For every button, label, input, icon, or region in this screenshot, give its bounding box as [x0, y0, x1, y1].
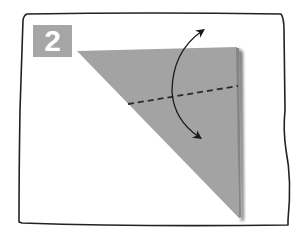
paper-triangle: [77, 47, 239, 218]
origami-step-diagram: 2: [0, 0, 301, 241]
step-number-badge: 2: [33, 25, 72, 57]
